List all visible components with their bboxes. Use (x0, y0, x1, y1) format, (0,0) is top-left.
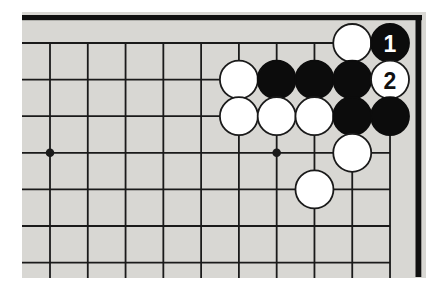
stone-black (295, 61, 333, 99)
go-board: 12 (22, 12, 426, 278)
stone-white (295, 170, 333, 208)
stone-white (295, 97, 333, 135)
stone-white (220, 97, 258, 135)
stone-white (220, 61, 258, 99)
star-point (46, 149, 55, 158)
stone-label-1: 1 (384, 31, 397, 57)
stone-white (333, 24, 371, 62)
stone-black (258, 61, 296, 99)
board-right-edge (416, 15, 422, 277)
board-top-edge (22, 15, 422, 20)
page: 12 (0, 0, 436, 294)
stone-label-2: 2 (384, 68, 397, 94)
star-point (272, 149, 281, 158)
stone-black (333, 61, 371, 99)
stone-white (333, 134, 371, 172)
stone-black (333, 97, 371, 135)
go-diagram: 12 (22, 12, 426, 278)
stone-black (371, 97, 409, 135)
stone-white (258, 97, 296, 135)
